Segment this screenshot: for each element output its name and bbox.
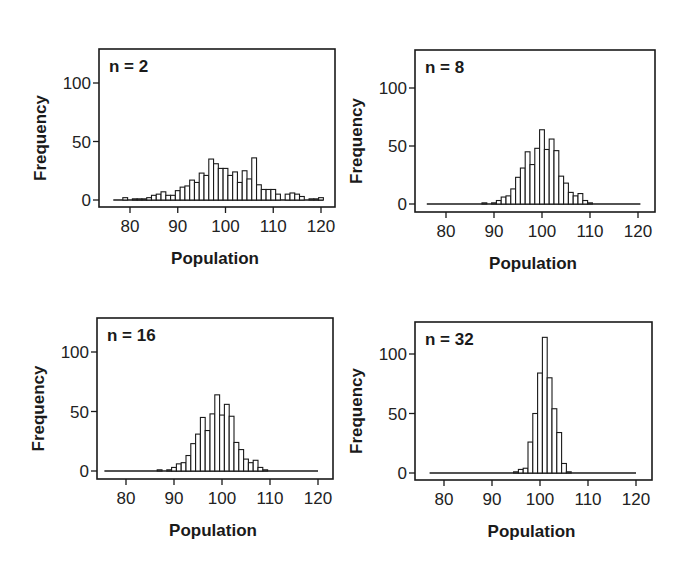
- histogram-bar: [248, 463, 253, 471]
- x-tick-label: 120: [304, 489, 332, 508]
- y-tick-label: 50: [70, 403, 89, 422]
- histogram-bar: [186, 456, 191, 471]
- histogram-bar: [290, 193, 295, 200]
- y-tick-label: 100: [63, 74, 91, 93]
- x-tick-label: 90: [485, 222, 504, 241]
- histogram-bar: [253, 460, 258, 471]
- histogram-bar: [252, 158, 257, 200]
- panel-label: n = 8: [425, 58, 464, 77]
- histogram-bar: [215, 395, 220, 471]
- x-axis-title: Population: [489, 254, 577, 273]
- histogram-bar: [210, 414, 215, 471]
- x-tick-label: 110: [260, 217, 287, 236]
- histogram-bar: [151, 195, 156, 200]
- histogram-bar: [258, 467, 263, 471]
- histogram-bar: [511, 189, 516, 204]
- panel-label: n = 16: [107, 326, 156, 345]
- histogram-bar: [271, 189, 276, 200]
- histogram-bar: [172, 467, 177, 471]
- histogram-bar: [196, 434, 201, 471]
- x-tick-label: 100: [208, 489, 236, 508]
- histogram-bar: [257, 185, 262, 200]
- y-tick-label: 50: [72, 133, 91, 152]
- histogram-bar: [199, 173, 204, 200]
- histogram-bar: [266, 189, 271, 200]
- bars: [157, 395, 267, 471]
- histogram-bar: [314, 199, 319, 200]
- histogram-bar: [176, 464, 181, 471]
- histogram-bar: [544, 149, 549, 204]
- histogram-bar: [244, 459, 249, 471]
- panel-label: n = 32: [425, 330, 474, 349]
- y-tick-label: 50: [388, 137, 407, 156]
- histogram-bar: [523, 468, 528, 473]
- histogram-bar: [132, 199, 137, 200]
- histogram-bar: [191, 444, 196, 471]
- y-tick-label: 0: [398, 464, 407, 483]
- histogram-bar: [300, 196, 305, 200]
- histogram-bar: [185, 186, 190, 200]
- histogram-bar: [518, 469, 523, 473]
- histogram-bar: [147, 198, 152, 200]
- histogram-bar: [242, 171, 247, 200]
- y-axis-title: Frequency: [347, 367, 366, 454]
- y-tick-label: 0: [82, 191, 91, 210]
- y-tick-label: 0: [80, 462, 89, 481]
- y-tick-label: 100: [379, 79, 407, 98]
- histogram-bar: [562, 463, 567, 473]
- y-tick-label: 50: [388, 405, 407, 424]
- histogram-bar: [568, 192, 573, 204]
- histogram-bar: [559, 176, 564, 204]
- histogram-bar: [223, 168, 228, 200]
- histogram-bar: [542, 337, 547, 473]
- histogram-bar: [175, 191, 180, 200]
- x-tick-label: 120: [624, 222, 652, 241]
- x-tick-label: 90: [168, 217, 187, 236]
- y-axis-title: Frequency: [347, 97, 366, 184]
- histogram-panel-4: 0501008090100110120n = 32PopulationFrequ…: [347, 322, 652, 541]
- histogram-bar: [142, 199, 147, 200]
- histogram-bar: [516, 177, 521, 204]
- y-tick-label: 0: [398, 195, 407, 214]
- x-axis-title: Population: [488, 522, 576, 541]
- x-tick-label: 80: [117, 489, 136, 508]
- histogram-bar: [533, 414, 538, 474]
- histogram-bar: [228, 175, 233, 200]
- x-tick-label: 120: [622, 490, 650, 509]
- histogram-bar: [214, 164, 219, 200]
- x-tick-label: 80: [435, 490, 454, 509]
- bars: [514, 337, 572, 473]
- histogram-bar: [540, 130, 545, 204]
- x-tick-label: 80: [437, 222, 456, 241]
- histogram-bar: [319, 198, 324, 200]
- histogram-bar: [566, 472, 571, 473]
- histogram-bar: [156, 194, 161, 200]
- histogram-bar: [204, 175, 209, 200]
- panel-label: n = 2: [109, 57, 148, 76]
- x-tick-label: 100: [211, 217, 239, 236]
- histogram-bar: [123, 198, 128, 200]
- x-tick-label: 90: [165, 489, 184, 508]
- histogram-bar: [180, 187, 185, 200]
- x-axis-title: Population: [171, 249, 259, 268]
- x-tick-label: 110: [574, 490, 601, 509]
- histogram-bar: [573, 196, 578, 204]
- histogram-bar: [194, 182, 199, 200]
- histogram-bar: [157, 470, 162, 471]
- y-axis-title: Frequency: [29, 365, 48, 452]
- histogram-bar: [530, 165, 535, 204]
- histogram-bar: [239, 450, 244, 471]
- histogram-bar: [190, 180, 195, 200]
- histogram-bar: [525, 152, 530, 204]
- histogram-bar: [218, 168, 223, 200]
- histogram-bar: [161, 192, 166, 200]
- histogram-bar: [137, 199, 142, 200]
- histogram-bar: [554, 151, 559, 204]
- histogram-figure: 0501008090100110120n = 2PopulationFreque…: [0, 0, 681, 581]
- histogram-bar: [506, 196, 511, 204]
- histogram-bar: [538, 373, 543, 473]
- histogram-bar: [528, 442, 533, 473]
- histogram-panel-1: 0501008090100110120n = 2PopulationFreque…: [31, 49, 335, 268]
- histogram-bar: [276, 194, 281, 200]
- histogram-bar: [492, 203, 497, 204]
